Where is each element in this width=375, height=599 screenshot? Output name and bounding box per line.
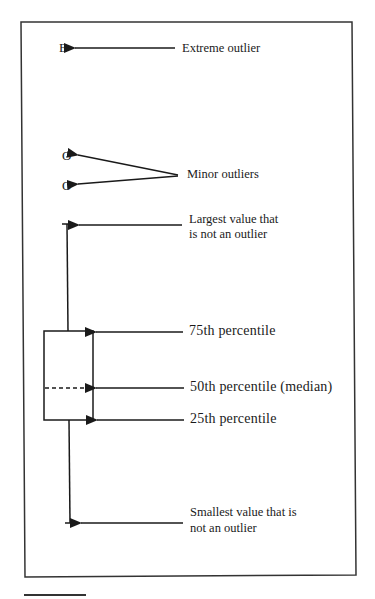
- p75-label: 75th percentile: [189, 323, 276, 338]
- largest-value-label-1: Largest value that: [189, 212, 278, 227]
- iqr-box: [44, 331, 93, 420]
- lower-whisker: [69, 420, 70, 523]
- diagram-frame: [21, 22, 356, 577]
- p50-label: 50th percentile (median): [190, 379, 332, 394]
- extreme-outlier-marker: E: [59, 41, 67, 55]
- minor-outlier-marker-2: O: [62, 179, 71, 193]
- p25-label: 25th percentile: [190, 411, 277, 426]
- largest-value-label-2: is not an outlier: [189, 227, 267, 242]
- upper-whisker: [67, 224, 68, 331]
- minor-outlier-marker-1: O: [62, 149, 71, 163]
- smallest-value-label-2: not an outlier: [190, 521, 257, 536]
- boxplot-diagram: [0, 0, 375, 599]
- minor-outlier-arrow-1: [78, 155, 178, 175]
- smallest-value-label-1: Smallest value that is: [190, 505, 297, 520]
- minor-outliers-label: Minor outliers: [187, 167, 259, 182]
- minor-outlier-arrow-2: [78, 176, 178, 184]
- extreme-outlier-label: Extreme outlier: [182, 41, 260, 56]
